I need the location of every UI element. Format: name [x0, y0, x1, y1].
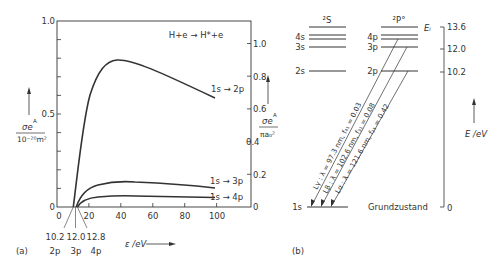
label-3p: 3p — [367, 42, 378, 52]
column-2p-header: ²P° — [393, 15, 406, 25]
threshold-state-4p: 4p — [91, 246, 102, 256]
x-tick-80: 80 — [180, 211, 191, 221]
label-4p: 4p — [367, 32, 378, 42]
ionization-label: Eᵢ — [424, 23, 431, 33]
energy-tick-13.6: 13.6 — [447, 22, 466, 32]
panel-a-label: (a) — [16, 246, 28, 256]
left-ylabel-sup: A — [33, 118, 37, 124]
right-ylabel-sup: A — [273, 112, 277, 118]
label-2p: 2p — [367, 66, 378, 76]
threshold-state-3p: 3p — [71, 246, 82, 256]
label-4s: 4s — [295, 32, 305, 42]
right-axis-ticks — [247, 44, 251, 175]
left-ylabel-numerator: σe — [22, 122, 33, 132]
panel-a-labels: H+e → H*+e 1.0 0.5 0 0 20 40 60 80 100 1… — [16, 16, 277, 256]
energy-axis — [440, 27, 444, 207]
y-right-tick-0.4: 0.4 — [246, 137, 260, 147]
left-axis-ticks — [57, 40, 61, 189]
curve-1s-3p — [76, 182, 215, 207]
label-3s: 3s — [295, 42, 305, 52]
energy-tick-12.0: 12.0 — [447, 44, 466, 54]
threshold-10.2: 10.2 — [46, 232, 65, 242]
transition-lgamma — [312, 39, 398, 205]
ground-state-label: Grundzustand — [368, 202, 428, 212]
right-ylabel-arrowhead — [266, 75, 270, 82]
x-tick-40: 40 — [116, 211, 127, 221]
panel-b-labels: ²S ²P° 4s 3s 2s 4p 3p 2p 1s Grundzustand… — [292, 15, 488, 256]
threshold-12.0: 12.0 — [67, 232, 86, 242]
energy-tick-0: 0 — [447, 203, 452, 213]
y-left-tick-0: 0 — [50, 202, 55, 212]
y-left-tick-1.0: 1.0 — [41, 16, 55, 26]
y-left-tick-0.5: 0.5 — [41, 109, 55, 119]
x-tick-0: 0 — [56, 211, 61, 221]
left-ylabel-arrowhead — [27, 87, 31, 94]
label-2s: 2s — [295, 66, 305, 76]
reaction-label: H+e → H*+e — [169, 30, 223, 40]
x-tick-60: 60 — [148, 211, 159, 221]
x-tick-100: 100 — [209, 211, 225, 221]
threshold-12.8: 12.8 — [87, 232, 106, 242]
y-right-tick-0: 0 — [253, 202, 258, 212]
curve-1s-2p — [73, 60, 215, 207]
bottom-axis-ticks — [89, 203, 217, 207]
y-right-tick-0.2: 0.2 — [253, 170, 267, 180]
column-2s-header: ²S — [323, 15, 332, 25]
right-ylabel-denominator: πa₀² — [260, 130, 275, 139]
energy-axis-label: E /eV — [465, 129, 488, 139]
right-ylabel-numerator: σe — [262, 116, 273, 126]
figure: H+e → H*+e 1.0 0.5 0 0 20 40 60 80 100 1… — [0, 0, 500, 269]
left-ylabel-denominator: 10⁻²⁰m² — [17, 135, 47, 144]
y-right-tick-0.6: 0.6 — [253, 104, 267, 114]
threshold-state-2p: 2p — [50, 246, 61, 256]
curve-label-2p: 1s → 2p — [211, 84, 244, 94]
energy-arrowhead — [472, 98, 476, 105]
y-right-tick-1.0: 1.0 — [253, 39, 267, 49]
curve-1s-4p — [77, 196, 215, 207]
curve-label-3p: 1s → 3p — [210, 176, 243, 186]
x-axis-arrowhead — [169, 242, 176, 246]
x-axis-label: ε /eV — [125, 239, 147, 249]
panel-b-label: (b) — [292, 246, 304, 256]
energy-tick-10.2: 10.2 — [447, 67, 466, 77]
label-1s: 1s — [292, 202, 302, 212]
y-right-tick-0.8: 0.8 — [253, 72, 267, 82]
x-tick-20: 20 — [84, 211, 95, 221]
curve-label-4p: 1s → 4p — [210, 192, 243, 202]
